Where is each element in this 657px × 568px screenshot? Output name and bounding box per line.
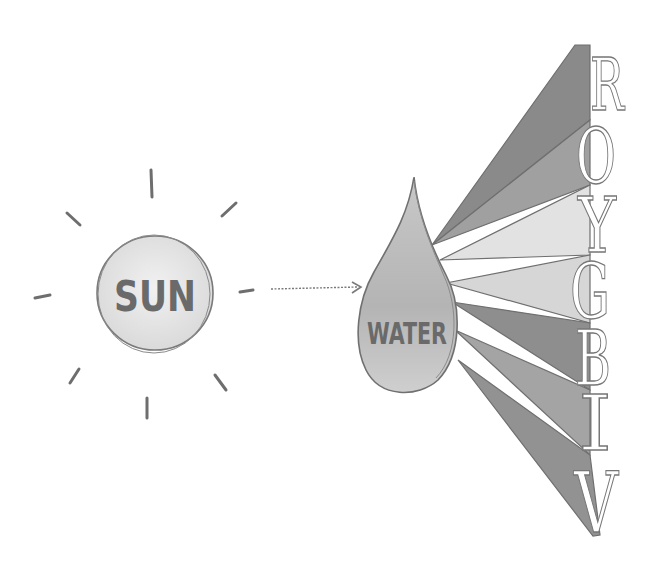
sun-ray-top — [151, 170, 152, 197]
dotted-arrow — [271, 282, 361, 293]
sun-ray-top-left — [67, 213, 80, 225]
sun-ray-top-right — [222, 203, 236, 216]
water-droplet: WATER — [358, 177, 457, 392]
letter-v: V — [573, 454, 619, 552]
sun-ray-left — [35, 295, 50, 298]
sun-ray-right — [240, 290, 253, 292]
sun-label: SUN — [114, 272, 196, 321]
sun-ray-bottom-left — [70, 369, 79, 383]
rainbow-diagram: SUN R O Y G B I V WATER — [0, 0, 657, 568]
water-label: WATER — [367, 316, 447, 351]
sun-ray-bottom-right — [215, 375, 226, 390]
sun: SUN — [97, 235, 213, 353]
spectrum-letters: R O Y G B I V — [570, 43, 625, 552]
